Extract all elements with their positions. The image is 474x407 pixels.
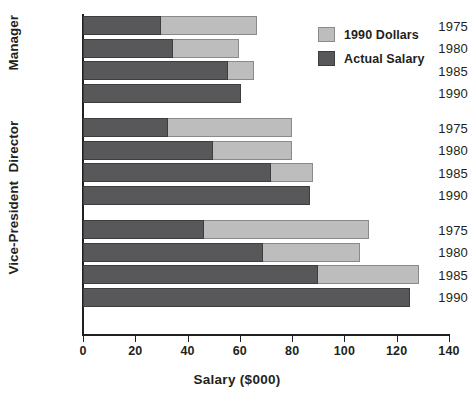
legend-label-actual-salary: Actual Salary bbox=[344, 52, 425, 66]
bar-row bbox=[83, 118, 449, 137]
bar-segment-actual-salary bbox=[83, 141, 213, 160]
bar-segment-actual-salary bbox=[83, 288, 410, 307]
bar-row bbox=[83, 84, 449, 103]
year-label: 1985 bbox=[396, 165, 474, 180]
x-axis-tick bbox=[397, 336, 398, 342]
year-label: 1990 bbox=[396, 86, 474, 101]
group-label-vice-president: Vice-President bbox=[0, 254, 26, 269]
bar-row bbox=[83, 163, 449, 182]
x-axis-tick-label: 20 bbox=[128, 344, 142, 358]
legend-label-1990-dollars: 1990 Dollars bbox=[344, 28, 419, 42]
x-axis-tick bbox=[344, 336, 345, 342]
year-label: 1985 bbox=[396, 267, 474, 282]
x-axis-line bbox=[82, 334, 450, 336]
x-axis-tick bbox=[449, 336, 450, 342]
x-axis-tick-label: 80 bbox=[285, 344, 299, 358]
bar-row bbox=[83, 220, 449, 239]
bar-segment-actual-salary bbox=[83, 118, 168, 137]
group-label-director: Director bbox=[0, 152, 26, 167]
x-axis-tick bbox=[83, 336, 84, 342]
year-label: 1975 bbox=[396, 222, 474, 237]
bar-segment-actual-salary bbox=[83, 163, 271, 182]
chart-legend: 1990 Dollars Actual Salary bbox=[318, 27, 425, 75]
x-axis-tick bbox=[135, 336, 136, 342]
group-label-manager: Manager bbox=[0, 50, 26, 65]
year-label: 1980 bbox=[396, 143, 474, 158]
bar-segment-actual-salary bbox=[83, 220, 204, 239]
legend-swatch-actual-salary bbox=[318, 51, 335, 66]
bar-row bbox=[83, 288, 449, 307]
salary-bar-chart: 020406080100120140 197519801985199019751… bbox=[0, 0, 474, 407]
x-axis-title: Salary ($000) bbox=[0, 372, 474, 387]
x-axis-tick-label: 0 bbox=[79, 344, 86, 358]
x-axis-tick-label: 120 bbox=[386, 344, 407, 358]
bar-row bbox=[83, 243, 449, 262]
year-label: 1990 bbox=[396, 188, 474, 203]
bar-row bbox=[83, 265, 449, 284]
legend-item-actual-salary: Actual Salary bbox=[318, 51, 425, 66]
bar-segment-actual-salary bbox=[83, 265, 318, 284]
bar-segment-actual-salary bbox=[83, 16, 161, 35]
bar-segment-actual-salary bbox=[83, 39, 173, 58]
bar-segment-actual-salary bbox=[83, 186, 310, 205]
legend-swatch-1990-dollars bbox=[318, 27, 335, 42]
x-axis-tick bbox=[292, 336, 293, 342]
year-label: 1980 bbox=[396, 245, 474, 260]
bar-row bbox=[83, 186, 449, 205]
bar-row bbox=[83, 141, 449, 160]
year-label: 1975 bbox=[396, 120, 474, 135]
x-axis-tick-label: 100 bbox=[334, 344, 355, 358]
x-axis-tick bbox=[240, 336, 241, 342]
legend-item-1990-dollars: 1990 Dollars bbox=[318, 27, 425, 42]
bar-segment-actual-salary bbox=[83, 243, 263, 262]
bar-segment-actual-salary bbox=[83, 61, 228, 80]
x-axis-tick bbox=[188, 336, 189, 342]
year-label: 1990 bbox=[396, 290, 474, 305]
x-axis-tick-label: 140 bbox=[438, 344, 459, 358]
x-axis-tick-label: 60 bbox=[233, 344, 247, 358]
bar-segment-actual-salary bbox=[83, 84, 241, 103]
x-axis-tick-label: 40 bbox=[180, 344, 194, 358]
